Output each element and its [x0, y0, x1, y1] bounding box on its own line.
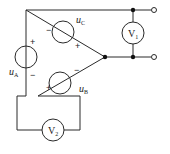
junction-dot-top: [131, 8, 135, 12]
ua-minus: −: [30, 70, 35, 80]
uc-plus: +: [75, 41, 80, 51]
voltmeter-v2: V2: [42, 119, 64, 141]
junction-dot-bottom: [131, 55, 135, 59]
ub-plus: +: [46, 83, 51, 93]
uc-label: uC: [76, 14, 85, 26]
voltmeter-v1: V1: [122, 22, 144, 44]
source-uc: − + uC: [46, 14, 85, 51]
v2-left-wire: [17, 96, 42, 130]
circuit-diagram: + − uA − + uC + − uB V1 V2: [0, 0, 170, 154]
uc-minus: −: [46, 25, 51, 35]
junction-dot-center: [103, 55, 107, 59]
terminal-top[interactable]: [152, 8, 157, 13]
source-ua: + − uA: [9, 37, 37, 80]
terminal-bottom[interactable]: [152, 55, 157, 60]
ua-plus: +: [30, 37, 35, 47]
ub-minus: −: [74, 65, 79, 75]
source-ub: + − uB: [46, 65, 88, 95]
uc-diagonal-wire: [26, 10, 105, 57]
ub-label: uB: [79, 83, 88, 95]
ua-label: uA: [9, 66, 19, 78]
